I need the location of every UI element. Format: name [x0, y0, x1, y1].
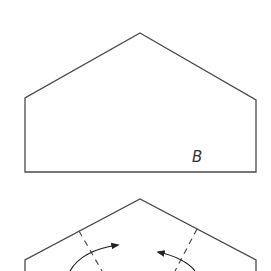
top-pentagon: B: [25, 33, 256, 172]
fold-line-left: [79, 231, 102, 271]
bottom-pentagon: [25, 199, 256, 271]
fold-line-right: [175, 229, 197, 271]
diagram-canvas: B: [0, 0, 271, 271]
label-b: B: [192, 148, 202, 166]
fold-left-arrow: [70, 245, 118, 271]
